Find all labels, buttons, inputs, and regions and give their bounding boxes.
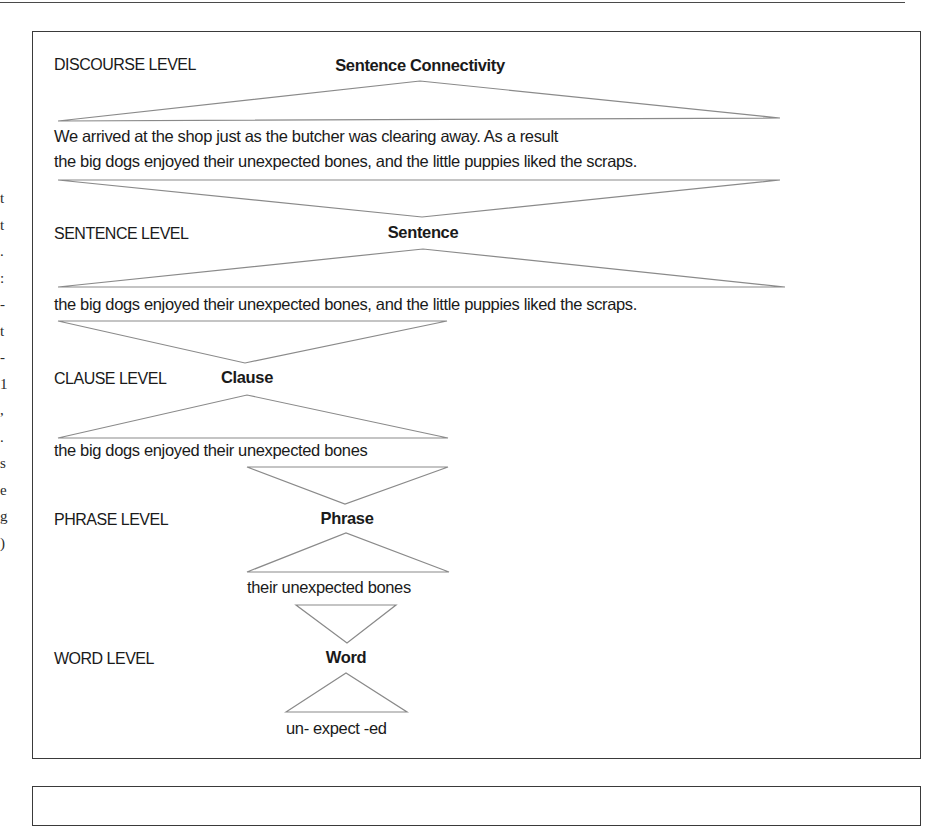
word-level-label: WORD LEVEL xyxy=(54,649,154,669)
discourse-example-line-2: the big dogs enjoyed their unexpected bo… xyxy=(54,151,637,171)
sentence-example: the big dogs enjoyed their unexpected bo… xyxy=(54,294,637,314)
clause-example: the big dogs enjoyed their unexpected bo… xyxy=(54,440,367,460)
next-figure-box xyxy=(32,786,921,826)
discourse-level-label: DISCOURSE LEVEL xyxy=(54,55,196,75)
phrase-level-label: PHRASE LEVEL xyxy=(54,510,168,530)
adjacent-page-text-fragments: t t . : - t - 1 , . s e g ) xyxy=(0,185,14,556)
phrase-unit-label: Phrase xyxy=(321,508,374,528)
clause-level-label: CLAUSE LEVEL xyxy=(54,369,166,389)
discourse-example-line-1: We arrived at the shop just as the butch… xyxy=(54,126,558,146)
clause-unit-label: Clause xyxy=(221,367,273,387)
word-unit-label: Word xyxy=(326,647,366,667)
sentence-unit-label: Sentence xyxy=(388,222,459,242)
discourse-unit-label: Sentence Connectivity xyxy=(335,55,505,75)
phrase-example: their unexpected bones xyxy=(247,577,411,597)
sentence-level-label: SENTENCE LEVEL xyxy=(54,224,188,244)
page-top-rule xyxy=(0,2,905,3)
word-example: un- expect -ed xyxy=(286,718,387,738)
